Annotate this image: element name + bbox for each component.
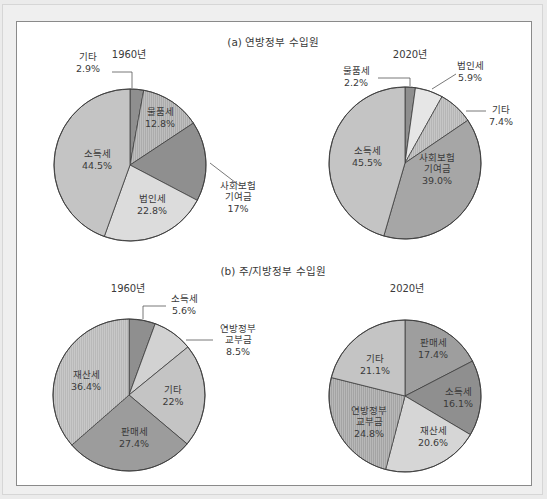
slice-label: 기타22% xyxy=(162,384,183,407)
slice-label: 사회보험기여금17% xyxy=(220,180,256,214)
slice-label: 사회보험기여금39.0% xyxy=(419,152,455,186)
pie-charts: 1960년기타2.9%물품세12.8%사회보험기여금17%법인세22.8%소득세… xyxy=(53,49,513,472)
pie-chart-2: 2020년물품세2.2%법인세5.9%기타7.4%사회보험기여금39.0%소득세… xyxy=(329,49,513,239)
slice-label: 판매세27.4% xyxy=(119,426,149,449)
slice-label: 소득세44.5% xyxy=(82,148,112,171)
leader-line xyxy=(143,306,166,319)
pie-chart-3: 1960년소득세5.6%연방정부교부금8.5%기타22%판매세27.4%재산세3… xyxy=(53,283,256,471)
pie-title: 2020년 xyxy=(390,283,424,294)
slice-label: 법인세22.8% xyxy=(137,193,167,216)
leader-line xyxy=(432,74,456,89)
slice-label: 재산세20.6% xyxy=(418,425,448,448)
slice-label: 판매세17.4% xyxy=(418,337,448,360)
slice-label: 재산세36.4% xyxy=(71,369,101,392)
slice-label: 연방정부교부금24.8% xyxy=(351,405,387,439)
section-b-title: (b) 주/지방정부 수입원 xyxy=(220,265,325,277)
slice-label: 기타2.9% xyxy=(76,51,100,74)
pie-chart-figure: (a) 연방정부 수입원 (b) 주/지방정부 수입원 1960년기타2.9%물… xyxy=(0,0,547,499)
slice-label: 기타7.4% xyxy=(489,104,513,127)
slice-label: 소득세5.6% xyxy=(171,293,198,316)
slice-label: 연방정부교부금8.5% xyxy=(220,323,256,357)
pie-title: 2020년 xyxy=(393,49,427,60)
leader-line xyxy=(378,78,410,86)
slice-label: 소득세45.5% xyxy=(352,145,382,168)
pie-title: 1960년 xyxy=(111,283,145,294)
pie-title: 1960년 xyxy=(112,49,146,60)
pie-chart-1: 1960년기타2.9%물품세12.8%사회보험기여금17%법인세22.8%소득세… xyxy=(54,49,256,241)
pie-chart-4: 2020년판매세17.4%소득세16.1%재산세20.6%연방정부교부금24.8… xyxy=(329,283,481,472)
slice-label: 소득세16.1% xyxy=(443,386,473,409)
section-a-title: (a) 연방정부 수입원 xyxy=(227,36,318,48)
slice-label: 법인세5.9% xyxy=(457,60,484,83)
slice-label: 물품세12.8% xyxy=(145,106,175,129)
leader-line xyxy=(112,72,132,88)
slice-label: 물품세2.2% xyxy=(343,65,370,88)
